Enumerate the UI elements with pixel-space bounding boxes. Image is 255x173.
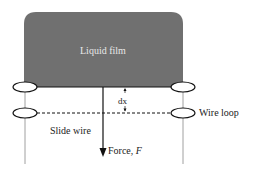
- right-wire-loop-top: [171, 82, 195, 92]
- diagram-canvas: Liquid film dx Wire loop Slide wire Forc…: [0, 0, 255, 173]
- wire-loop-label: Wire loop: [199, 108, 239, 118]
- force-symbol: F: [136, 145, 142, 156]
- left-wire-loop-top: [13, 82, 37, 92]
- force-label: Force, F: [108, 146, 142, 156]
- force-arrow-head-icon: [100, 148, 107, 157]
- slide-wire-label: Slide wire: [50, 126, 91, 136]
- dx-label: dx: [118, 97, 127, 106]
- dx-arrow-down-icon: [124, 109, 127, 112]
- force-label-prefix: Force,: [108, 145, 136, 156]
- dx-arrow-up-icon: [124, 88, 127, 91]
- left-wire-loop-bottom: [13, 108, 37, 118]
- liquid-film-label: Liquid film: [80, 46, 126, 56]
- right-wire-loop-bottom: [171, 108, 195, 118]
